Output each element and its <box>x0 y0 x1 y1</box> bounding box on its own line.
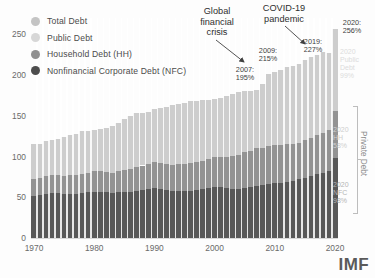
annotation-gfc: Global financial crisis <box>186 6 248 38</box>
legend-label-public: Public Debt <box>47 33 93 43</box>
legend-swatch-public <box>31 33 40 42</box>
datalabel-2009: 2009: 215% <box>254 47 282 64</box>
annotation-covid-line1: COVID-19 <box>248 3 320 14</box>
annotation-gfc-line3: crisis <box>186 27 248 38</box>
datalabel-2007: 2007: 195% <box>231 66 259 83</box>
legend-swatch-nfc <box>31 66 40 75</box>
datalabel-2020: 2020: 256% <box>337 19 367 36</box>
legend-label-total: Total Debt <box>47 16 87 26</box>
chart-canvas: 050100150200250 197019801990200020102020… <box>0 0 375 278</box>
legend-swatch-household <box>31 50 40 59</box>
legend-swatch-total <box>31 17 40 26</box>
legend-item-household: Household Debt (HH) <box>31 47 186 61</box>
datalabel-2007-value: 195% <box>231 74 259 82</box>
datalabel-2019-value: 227% <box>299 46 327 54</box>
datalabel-2020-value: 256% <box>337 27 367 35</box>
annotation-gfc-line2: financial <box>186 17 248 28</box>
legend-item-nfc: Nonfinancial Corporate Debt (NFC) <box>31 64 186 78</box>
legend-label-household: Household Debt (HH) <box>47 49 132 59</box>
datalabel-2009-value: 215% <box>254 55 282 63</box>
legend: Total Debt Public Debt Household Debt (H… <box>31 14 186 80</box>
legend-item-public: Public Debt <box>31 31 186 45</box>
datalabel-2019: 2019: 227% <box>299 38 327 55</box>
annotation-covid: COVID-19 pandemic <box>248 3 320 24</box>
legend-item-total: Total Debt <box>31 14 186 28</box>
legend-label-nfc: Nonfinancial Corporate Debt (NFC) <box>47 66 186 76</box>
annotation-gfc-line1: Global <box>186 6 248 17</box>
annotation-covid-line2: pandemic <box>248 14 320 25</box>
